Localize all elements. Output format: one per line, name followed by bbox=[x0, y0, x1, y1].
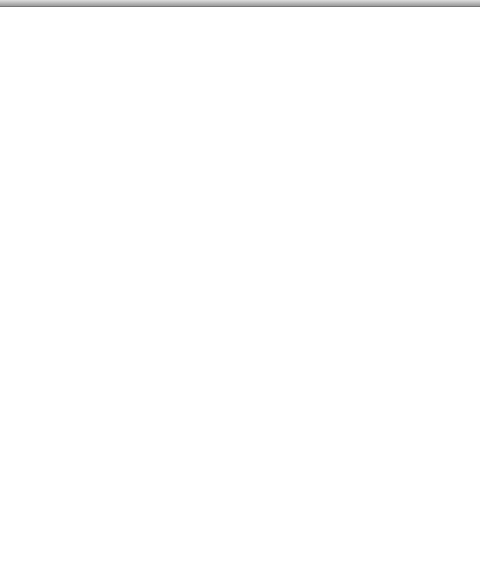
map-canvas bbox=[0, 0, 480, 582]
